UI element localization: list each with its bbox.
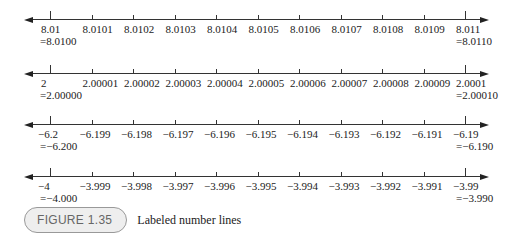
start-equivalent: =2.00000 — [40, 89, 82, 101]
tick-mark — [299, 172, 300, 176]
tick-label: 2.00002 — [124, 77, 160, 89]
tick-mark — [50, 11, 51, 19]
arrow-left-icon — [24, 71, 33, 77]
arrow-left-icon — [24, 17, 33, 23]
axis-line — [30, 73, 482, 74]
tick-mark — [92, 69, 93, 73]
arrow-left-icon — [24, 174, 33, 180]
tick-mark — [465, 65, 466, 73]
tick-label: 2 — [41, 77, 47, 89]
tick-mark — [258, 120, 259, 124]
tick-label: 2.0001 — [456, 77, 486, 89]
tick-mark — [465, 11, 466, 19]
tick-label: 8.0102 — [124, 23, 154, 35]
axis-line — [30, 124, 482, 125]
tick-mark — [424, 69, 425, 73]
tick-mark — [258, 69, 259, 73]
tick-label: −3.995 — [246, 180, 277, 192]
tick-mark — [299, 120, 300, 124]
tick-mark — [133, 69, 134, 73]
tick-mark — [216, 15, 217, 19]
tick-mark — [175, 15, 176, 19]
tick-mark — [299, 15, 300, 19]
tick-label: −6.2 — [38, 128, 58, 140]
tick-label: 2.00004 — [207, 77, 243, 89]
tick-label: −3.996 — [204, 180, 235, 192]
start-equivalent: =8.0100 — [40, 35, 76, 47]
tick-mark — [258, 172, 259, 176]
arrow-right-icon — [480, 71, 489, 77]
tick-mark — [465, 168, 466, 176]
tick-mark — [424, 120, 425, 124]
tick-label: 2.00005 — [249, 77, 285, 89]
tick-label: −6.196 — [204, 128, 235, 140]
tick-mark — [175, 172, 176, 176]
tick-mark — [133, 120, 134, 124]
tick-label: 8.0109 — [415, 23, 445, 35]
figure-badge: FIGURE 1.35 — [24, 207, 127, 233]
tick-label: −6.195 — [246, 128, 277, 140]
tick-mark — [341, 172, 342, 176]
tick-mark — [133, 15, 134, 19]
tick-mark — [424, 172, 425, 176]
tick-label: 8.01 — [41, 23, 60, 35]
tick-label: 2.00003 — [166, 77, 202, 89]
tick-label: −6.198 — [121, 128, 152, 140]
tick-label: 8.0103 — [166, 23, 196, 35]
tick-mark — [175, 120, 176, 124]
tick-mark — [216, 172, 217, 176]
tick-label: 8.0101 — [83, 23, 113, 35]
tick-mark — [299, 69, 300, 73]
tick-label: 8.0107 — [332, 23, 362, 35]
tick-label: −6.193 — [329, 128, 360, 140]
tick-mark — [92, 15, 93, 19]
tick-label: 8.0106 — [290, 23, 320, 35]
axis-line — [30, 19, 482, 20]
arrow-right-icon — [480, 17, 489, 23]
tick-label: −6.194 — [287, 128, 318, 140]
arrow-right-icon — [480, 174, 489, 180]
tick-label: 2.00008 — [373, 77, 409, 89]
tick-label: −6.19 — [453, 128, 478, 140]
tick-mark — [341, 120, 342, 124]
axis-line — [30, 176, 482, 177]
start-equivalent: =−6.200 — [40, 140, 77, 152]
tick-label: 8.011 — [456, 23, 480, 35]
tick-label: −3.998 — [121, 180, 152, 192]
tick-label: 2.00006 — [290, 77, 326, 89]
tick-mark — [50, 168, 51, 176]
tick-label: −3.993 — [329, 180, 360, 192]
tick-label: −4 — [38, 180, 50, 192]
tick-mark — [382, 69, 383, 73]
tick-label: −6.197 — [163, 128, 194, 140]
tick-label: −3.99 — [453, 180, 478, 192]
caption-text: Labeled number lines — [137, 213, 241, 228]
tick-label: −3.991 — [412, 180, 443, 192]
tick-mark — [92, 120, 93, 124]
tick-mark — [133, 172, 134, 176]
tick-label: 2.00001 — [83, 77, 119, 89]
tick-mark — [341, 15, 342, 19]
tick-label: 8.0105 — [249, 23, 279, 35]
tick-mark — [382, 120, 383, 124]
tick-mark — [50, 65, 51, 73]
end-equivalent: =−3.990 — [456, 192, 493, 204]
tick-label: 8.0104 — [207, 23, 237, 35]
tick-label: 8.0108 — [373, 23, 403, 35]
tick-mark — [382, 15, 383, 19]
tick-label: −6.199 — [80, 128, 111, 140]
tick-mark — [465, 116, 466, 124]
tick-mark — [258, 15, 259, 19]
end-equivalent: =−6.190 — [456, 140, 493, 152]
start-equivalent: =−4.000 — [40, 192, 77, 204]
tick-mark — [382, 172, 383, 176]
arrow-left-icon — [24, 122, 33, 128]
tick-mark — [424, 15, 425, 19]
end-equivalent: =8.0110 — [456, 35, 492, 47]
tick-label: 2.00007 — [332, 77, 368, 89]
arrow-right-icon — [480, 122, 489, 128]
end-equivalent: =2.00010 — [456, 89, 498, 101]
figure-caption: FIGURE 1.35 Labeled number lines — [0, 207, 241, 233]
tick-mark — [175, 69, 176, 73]
tick-label: −3.997 — [163, 180, 194, 192]
